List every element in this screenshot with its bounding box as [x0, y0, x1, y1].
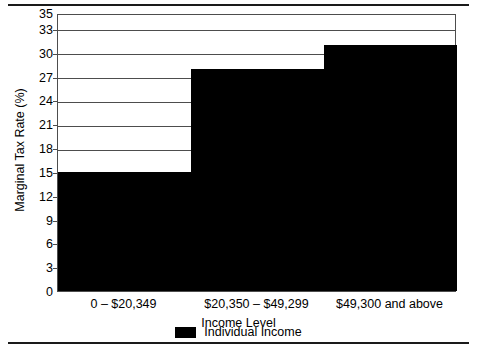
y-tick-label: 0 [13, 286, 53, 298]
y-tick-label: 35 [13, 8, 53, 20]
bar-series-individual-income [58, 15, 455, 291]
y-tick-label: 12 [13, 191, 53, 203]
x-tick-label: $20,350 – $49,299 [190, 297, 323, 311]
figure-top-rule [8, 4, 469, 6]
bar [58, 172, 191, 291]
y-tick-label: 6 [13, 238, 53, 250]
y-tick-label: 27 [13, 72, 53, 84]
tax-rate-bar-chart-figure: Marginal Tax Rate (%) 036912151821242730… [0, 0, 477, 348]
y-tick-label: 30 [13, 48, 53, 60]
bar [191, 69, 324, 291]
legend-swatch-individual-income [175, 327, 196, 338]
y-tick-label: 24 [13, 95, 53, 107]
x-tick-label: 0 – $20,349 [57, 297, 190, 311]
plot-area [57, 14, 456, 292]
y-tick-label: 3 [13, 262, 53, 274]
y-tick-label: 21 [13, 119, 53, 131]
chart-legend: Individual Income [0, 326, 477, 339]
bar [324, 45, 457, 291]
x-tick-label: $49,300 and above [323, 297, 456, 311]
y-tick-label: 9 [13, 215, 53, 227]
y-tick-label: 15 [13, 167, 53, 179]
figure-bottom-rule [8, 342, 469, 344]
y-tick-label: 33 [13, 24, 53, 36]
y-tick-label: 18 [13, 143, 53, 155]
legend-label-individual-income: Individual Income [204, 326, 301, 339]
